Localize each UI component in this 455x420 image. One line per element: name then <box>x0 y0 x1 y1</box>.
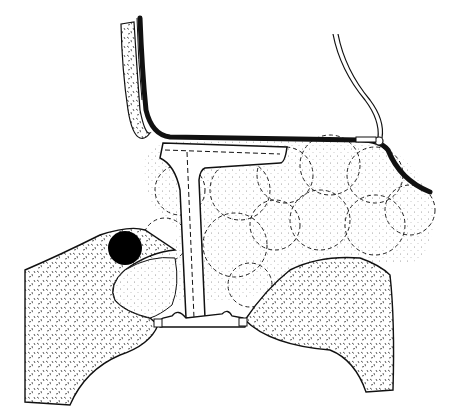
illustration-canvas <box>0 0 455 420</box>
thin-tube-right <box>333 34 383 145</box>
anatomical-illustration <box>0 0 455 420</box>
dark-marker <box>108 231 142 265</box>
